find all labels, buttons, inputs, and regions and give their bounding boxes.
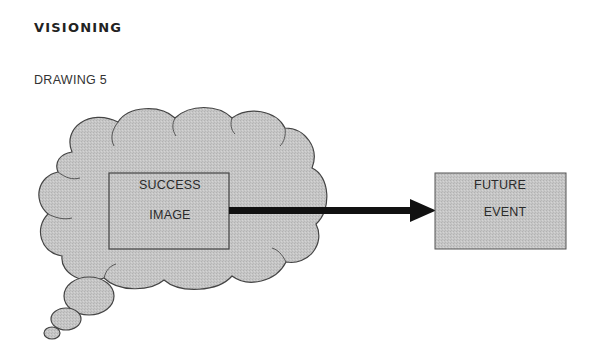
future-event-box: FUTURE EVENT [435,173,566,249]
success-image-line1: SUCCESS [139,178,201,192]
visioning-diagram: SUCCESS IMAGE FUTURE EVENT [0,0,600,355]
arrow-head [410,199,436,222]
success-image-box: SUCCESS IMAGE [109,173,229,249]
thought-bubbles [44,277,114,339]
thought-bubble-medium [51,308,81,330]
thought-bubble-small [44,327,60,339]
arrow-shaft [229,207,413,214]
future-event-line2: EVENT [484,205,527,219]
future-event-line1: FUTURE [474,178,526,192]
success-image-line2: IMAGE [149,208,190,222]
